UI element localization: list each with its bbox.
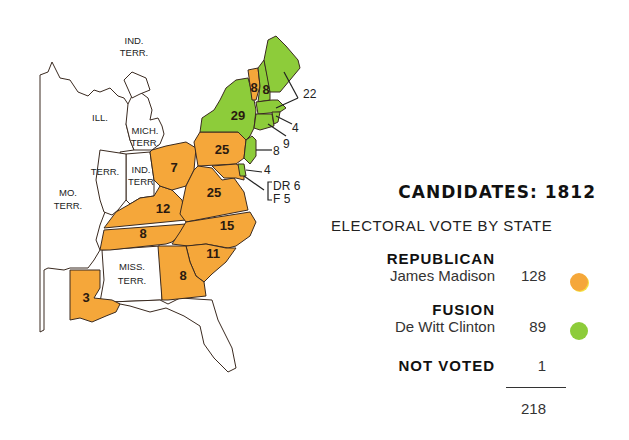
legend-subtitle: ELECTORAL VOTE BY STATE [331,217,552,234]
svg-text:4: 4 [264,163,271,177]
state-new-jersey[interactable] [244,136,256,164]
svg-text:TERR: TERR [128,176,154,187]
state-connecticut[interactable] [254,114,274,130]
party-republican: REPUBLICAN [387,250,495,267]
svg-text:TERR.: TERR. [118,275,147,286]
legend-title: CANDIDATES: 1812 [398,182,596,202]
svg-text:TERR.: TERR. [131,137,160,148]
svg-text:IND.: IND. [132,164,151,175]
svg-text:8: 8 [179,268,186,283]
svg-text:29: 29 [231,108,245,123]
svg-text:TERR.: TERR. [91,166,120,177]
votes-not-voted: 1 [506,357,546,374]
republican-color-swatch [570,273,588,291]
svg-text:8: 8 [273,144,280,158]
michigan-peninsula [124,72,150,98]
svg-text:7: 7 [170,160,177,175]
electoral-map: IND. TERR. ILL. MICH. TERR. TERR. IND. T… [0,0,340,440]
votes-madison: 128 [506,267,546,284]
total-divider [506,387,566,388]
svg-text:8: 8 [250,80,257,95]
state-new-york[interactable] [200,78,256,140]
svg-text:IND.: IND. [125,35,144,46]
state-massachusetts[interactable] [256,100,286,114]
svg-text:DR 6: DR 6 [273,179,301,193]
state-delaware[interactable] [238,164,246,176]
fusion-color-swatch [570,322,588,340]
svg-text:F 5: F 5 [273,192,291,206]
svg-text:3: 3 [82,290,89,305]
not-voted-label: NOT VOTED [398,357,495,374]
total-votes: 218 [506,400,546,417]
svg-text:25: 25 [207,185,221,200]
svg-text:15: 15 [220,218,234,233]
svg-text:TERR.: TERR. [54,200,83,211]
svg-text:12: 12 [156,201,170,216]
svg-text:TERR.: TERR. [120,47,149,58]
svg-text:MISS.: MISS. [119,261,145,272]
svg-text:MO.: MO. [59,187,77,198]
svg-text:ILL.: ILL. [92,112,108,123]
svg-text:25: 25 [215,142,229,157]
candidate-madison: James Madison [390,267,495,284]
party-fusion: FUSION [432,301,495,318]
svg-text:9: 9 [283,137,290,151]
svg-text:22: 22 [303,87,317,101]
florida [110,298,236,372]
svg-text:MICH.: MICH. [132,125,159,136]
svg-text:11: 11 [206,246,220,261]
svg-text:8: 8 [139,226,146,241]
mississippi-territory [100,246,162,302]
svg-text:4: 4 [292,121,299,135]
votes-clinton: 89 [506,318,546,335]
svg-text:8: 8 [262,82,269,97]
candidate-clinton: De Witt Clinton [395,318,495,335]
